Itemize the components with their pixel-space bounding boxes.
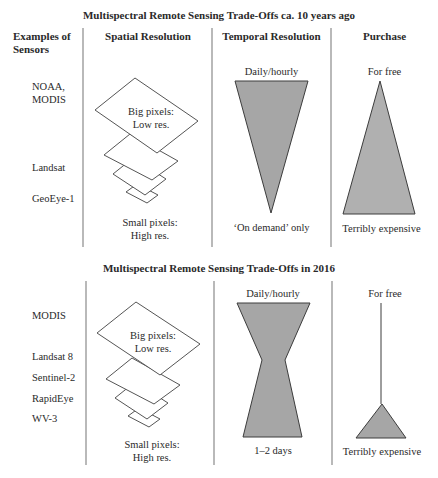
sensor-noaa: NOAA, — [32, 80, 65, 93]
temporal-bottom-label: ‘On demand’ only — [212, 221, 331, 234]
section2-title: Multispectral Remote Sensing Trade-Offs … — [0, 262, 438, 274]
big-pixels-line1: Big pixels: — [116, 105, 186, 118]
section1-title: Multispectral Remote Sensing Trade-Offs … — [0, 9, 438, 21]
big-pixels-label-2016: Big pixels: Low res. — [118, 329, 188, 355]
purchase-bottom-label-2016: Terribly expensive — [326, 445, 438, 458]
sensor-sentinel2: Sentinel-2 — [32, 371, 75, 384]
sensor-landsat8: Landsat 8 — [32, 350, 73, 363]
sensor-modis: MODIS — [32, 93, 66, 106]
header-spatial: Spatial Resolution — [84, 30, 212, 43]
big-pixels-line2: Low res. — [116, 118, 186, 131]
temporal-top-label: Daily/hourly — [212, 65, 331, 78]
sensor-modis-2016: MODIS — [32, 309, 66, 322]
header-sensors-line1: Examples of — [13, 30, 71, 43]
purchase-top-label-2016: For free — [332, 287, 438, 300]
small-pixels-line2: High res. — [112, 451, 192, 464]
temporal-top-label-2016: Daily/hourly — [214, 287, 332, 300]
purchase-bottom-label: Terribly expensive — [325, 222, 438, 235]
temporal-triangle — [235, 81, 308, 213]
big-pixels-line1: Big pixels: — [118, 329, 188, 342]
pixel-stack-1 — [95, 78, 198, 203]
purchase-triangle — [343, 81, 415, 214]
small-pixels-line1: Small pixels: — [110, 216, 190, 229]
purchase-top-label: For free — [331, 65, 438, 78]
pixel-stack-2 — [97, 302, 200, 427]
header-temporal: Temporal Resolution — [212, 30, 331, 43]
sensor-wv3: WV-3 — [32, 412, 57, 425]
small-pixels-label-2016: Small pixels: High res. — [112, 438, 192, 464]
header-sensors: Examples of Sensors — [13, 30, 71, 56]
temporal-bottom-label-2016: 1–2 days — [214, 444, 332, 457]
purchase-small-triangle — [356, 404, 406, 438]
sensor-rapideye: RapidEye — [32, 392, 73, 405]
small-pixels-line1: Small pixels: — [112, 438, 192, 451]
sensor-geoeye: GeoEye-1 — [32, 192, 75, 205]
small-pixels-label: Small pixels: High res. — [110, 216, 190, 242]
sensor-landsat: Landsat — [32, 161, 65, 174]
big-pixels-line2: Low res. — [118, 342, 188, 355]
big-pixels-label: Big pixels: Low res. — [116, 105, 186, 131]
temporal-hourglass — [237, 303, 310, 437]
header-sensors-line2: Sensors — [13, 43, 71, 56]
header-purchase: Purchase — [331, 30, 438, 43]
small-pixels-line2: High res. — [110, 229, 190, 242]
